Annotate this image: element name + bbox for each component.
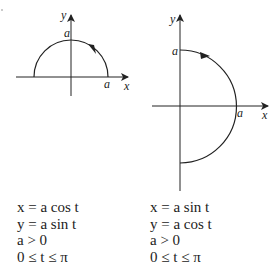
right-figure: y a a x xyxy=(152,12,268,191)
stray-dot xyxy=(1,9,3,11)
right-right-a-label: a xyxy=(237,106,243,120)
left-eq-t: 0 ≤ t ≤ π xyxy=(17,249,79,263)
right-eq-t: 0 ≤ t ≤ π xyxy=(150,249,212,263)
left-eq-a: a > 0 xyxy=(17,232,79,249)
right-x-label: x xyxy=(261,108,268,122)
right-eq-y: y = a cos t xyxy=(150,216,212,233)
right-equations: x = a sin t y = a cos t a > 0 0 ≤ t ≤ π xyxy=(150,199,212,263)
left-eq-x: x = a cos t xyxy=(17,199,79,216)
left-y-label: y xyxy=(60,8,67,22)
left-x-label: x xyxy=(123,79,130,93)
left-right-a-label: a xyxy=(104,77,110,91)
left-eq-y: y = a sin t xyxy=(17,216,79,233)
right-eq-a: a > 0 xyxy=(150,232,212,249)
left-top-a-label: a xyxy=(64,26,70,40)
right-eq-x: x = a sin t xyxy=(150,199,212,216)
right-y-label: y xyxy=(169,12,176,26)
right-top-a-label: a xyxy=(172,44,178,58)
left-arrowhead-icon xyxy=(88,44,96,54)
left-equations: x = a cos t y = a sin t a > 0 0 ≤ t ≤ π xyxy=(17,199,79,263)
left-figure: y a a x xyxy=(16,8,130,96)
